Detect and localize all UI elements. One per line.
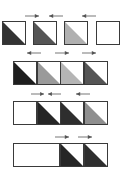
diagonal-triangle-icon — [61, 144, 83, 166]
diagonal-triangle-icon — [38, 102, 60, 124]
diagonal-triangle-icon — [34, 22, 56, 44]
arrow-right-icon — [78, 135, 92, 139]
arrow-left-icon — [76, 92, 90, 96]
diagonal-triangle-icon — [65, 22, 87, 44]
arrow-left-icon — [27, 51, 41, 55]
diagonal-triangle-icon — [38, 62, 60, 84]
diagonal-triangle-icon — [3, 22, 25, 44]
arrow-right-icon — [55, 135, 69, 139]
empty-cell — [96, 21, 120, 45]
shaded-triangle-cell — [37, 101, 61, 125]
shaded-triangle-cell — [84, 143, 108, 167]
diagonal-triangle-icon — [85, 144, 107, 166]
shaded-triangle-cell — [84, 61, 108, 85]
shaded-triangle-cell — [60, 143, 84, 167]
arrow-right-icon — [25, 14, 39, 18]
shaded-triangle-cell — [13, 61, 37, 85]
empty-cell — [13, 143, 60, 167]
arrow-left-icon — [48, 92, 61, 96]
shaded-triangle-cell — [37, 61, 61, 85]
diagonal-triangle-icon — [61, 102, 83, 124]
empty-cell — [13, 101, 37, 125]
diagonal-triangle-icon — [61, 62, 83, 84]
shaded-triangle-cell — [33, 21, 57, 45]
shaded-triangle-cell — [60, 101, 84, 125]
arrow-right-icon — [55, 51, 69, 55]
arrow-right-icon — [31, 92, 44, 96]
shaded-triangle-cell — [64, 21, 88, 45]
arrow-right-icon — [82, 51, 96, 55]
diagonal-triangle-icon — [85, 62, 107, 84]
shaded-triangle-cell — [84, 101, 108, 125]
diagonal-triangle-icon — [14, 62, 36, 84]
diagonal-triangle-icon — [85, 102, 107, 124]
arrow-left-icon — [49, 14, 63, 18]
shaded-triangle-cell — [60, 61, 84, 85]
arrow-left-icon — [82, 14, 96, 18]
shaded-triangle-cell — [2, 21, 26, 45]
